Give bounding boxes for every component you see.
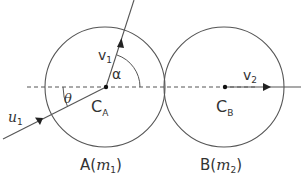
arrowhead-v2-icon xyxy=(263,83,271,91)
sphere-a-label: A(m1) xyxy=(80,156,122,175)
v2-label: v2 xyxy=(243,67,257,85)
collision-diagram: θ α v1 v2 u1 CA CB A(m1) B(m2) xyxy=(0,0,301,181)
center-a-label: CA xyxy=(91,97,109,118)
center-b-dot xyxy=(223,85,227,89)
sphere-b-label: B(m2) xyxy=(200,156,242,175)
v1-label: v1 xyxy=(98,47,112,65)
u1-label: u1 xyxy=(8,109,23,127)
center-b-label: CB xyxy=(216,97,233,118)
center-a-dot xyxy=(104,85,108,89)
theta-label: θ xyxy=(64,91,72,106)
arrowhead-u1-icon xyxy=(35,118,43,126)
alpha-label: α xyxy=(112,66,121,82)
arrowhead-v1-icon xyxy=(117,38,124,48)
